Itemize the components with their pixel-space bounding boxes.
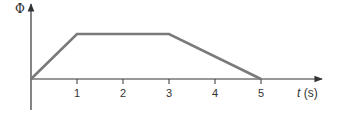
x-tick-label-5: 5 bbox=[258, 87, 264, 99]
flux-time-chart: 1 2 3 4 5 Φ t (s) bbox=[0, 0, 338, 115]
x-tick-label-2: 2 bbox=[120, 87, 126, 99]
x-axis-unit: (s) bbox=[300, 86, 317, 100]
x-tick-label-1: 1 bbox=[74, 87, 80, 99]
y-axis-label: Φ bbox=[15, 2, 25, 16]
x-tick-label-3: 3 bbox=[166, 87, 172, 99]
x-tick-label-4: 4 bbox=[212, 87, 218, 99]
flux-line bbox=[31, 34, 261, 79]
x-axis-label: t (s) bbox=[297, 86, 318, 100]
x-ticks bbox=[77, 79, 261, 84]
